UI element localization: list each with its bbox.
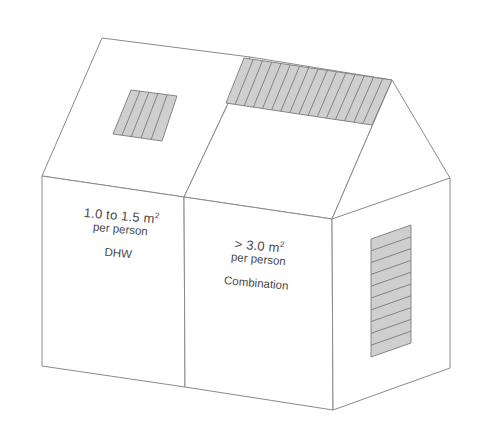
middle-area-superscript: 2 bbox=[280, 240, 285, 249]
left-face-label: 1.0 to 1.5 m2 per person DHW bbox=[66, 204, 174, 264]
left-area-superscript: 2 bbox=[155, 211, 160, 220]
middle-face-label: > 3.0 m2 per person Combination bbox=[204, 234, 312, 294]
house-diagram: 1.0 to 1.5 m2 per person DHW > 3.0 m2 pe… bbox=[0, 0, 483, 424]
middle-front-wall bbox=[184, 197, 333, 410]
collector-side-wall bbox=[371, 225, 411, 357]
